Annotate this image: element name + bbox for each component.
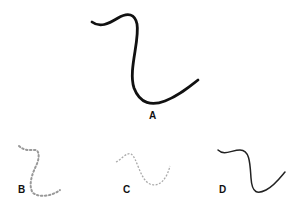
curve-a — [92, 15, 198, 104]
curve-d — [218, 150, 285, 192]
label-c: C — [123, 184, 130, 195]
curve-c — [116, 154, 170, 185]
curves-canvas — [0, 0, 299, 210]
label-a: A — [149, 110, 156, 121]
label-d: D — [219, 184, 226, 195]
label-b: B — [18, 184, 25, 195]
